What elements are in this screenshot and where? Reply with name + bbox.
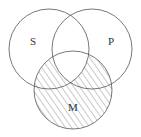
label-s: S (30, 35, 36, 47)
venn-diagram: S P M (0, 0, 141, 137)
label-m: M (68, 101, 78, 113)
label-p: P (108, 35, 114, 47)
